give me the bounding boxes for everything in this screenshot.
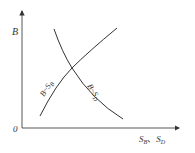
x-axis-label: SB、SD: [139, 134, 166, 145]
y-axis-label: B: [12, 26, 18, 37]
svg-text:B~SB: B~SB: [38, 79, 56, 99]
origin-label: 0: [13, 124, 18, 134]
label-b-sb: B~SB: [38, 79, 56, 99]
chart-canvas: B 0 SB、SD B~SB B~SD: [0, 0, 195, 153]
svg-text:B~SD: B~SD: [84, 82, 102, 103]
curve-b-sd: [54, 29, 123, 119]
curve-b-sb: [40, 28, 117, 116]
label-b-sd: B~SD: [84, 82, 102, 103]
